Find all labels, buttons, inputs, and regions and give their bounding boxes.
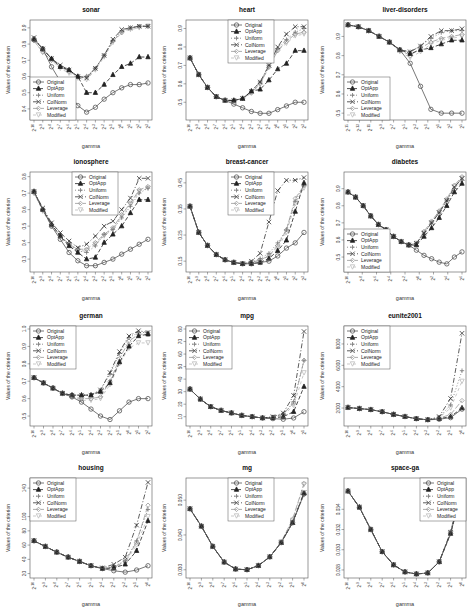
- y-axis: 0.50.60.70.80.91.0: [22, 325, 30, 419]
- svg-text:2-4: 2-4: [83, 276, 89, 282]
- legend-entry: Uniform: [47, 341, 65, 347]
- svg-text:2-10: 2-10: [187, 124, 193, 132]
- svg-text:50: 50: [178, 364, 183, 370]
- legend-entry: Uniform: [361, 341, 379, 347]
- svg-text:2-4: 2-4: [255, 582, 261, 588]
- legend-entry: Modified: [47, 361, 66, 367]
- svg-text:2-8: 2-8: [209, 582, 215, 588]
- x-axis: 2-102-92-82-72-62-52-42-32-22-120212223: [31, 120, 151, 131]
- legend-entry: Leverage: [89, 200, 110, 206]
- svg-text:2-11: 2-11: [367, 124, 373, 131]
- legend-entry: Uniform: [245, 187, 263, 193]
- svg-text:2-6: 2-6: [69, 430, 75, 436]
- legend-entry: Uniform: [245, 35, 263, 41]
- svg-text:6000: 6000: [336, 360, 341, 371]
- svg-text:23: 23: [145, 124, 151, 129]
- svg-text:2-2: 2-2: [269, 430, 275, 436]
- svg-text:23: 23: [301, 276, 307, 281]
- svg-text:60: 60: [178, 351, 183, 357]
- x-axis-label: gamma: [238, 601, 257, 607]
- svg-text:2-4: 2-4: [387, 276, 393, 282]
- svg-text:2-5: 2-5: [238, 430, 244, 436]
- series-original: [32, 539, 150, 575]
- chart-title: mpg: [240, 312, 254, 320]
- y-axis-label: Values of the criterion: [5, 198, 11, 246]
- svg-text:20: 20: [416, 276, 422, 281]
- svg-text:2-10: 2-10: [187, 582, 193, 590]
- svg-text:2-6: 2-6: [66, 124, 72, 130]
- svg-text:0.3: 0.3: [22, 255, 27, 262]
- series-modified: [188, 371, 306, 421]
- legend-entry: ColNorm: [245, 42, 265, 48]
- y-axis-label: Values of the criterion: [161, 504, 167, 552]
- svg-text:20: 20: [301, 582, 307, 587]
- chart-panel-heart: heart0.50.60.70.80.9Values of the criter…: [156, 0, 314, 154]
- legend-entry: Leverage: [47, 354, 68, 360]
- x-axis: 2-102-92-82-72-62-52-42-32-22-120212223: [31, 272, 151, 283]
- svg-text:2-6: 2-6: [76, 582, 82, 588]
- svg-text:2-5: 2-5: [402, 430, 408, 436]
- svg-text:2-3: 2-3: [92, 276, 98, 282]
- y-axis: 0.30.40.50.60.70.8: [22, 173, 30, 262]
- svg-text:2-4: 2-4: [413, 582, 419, 588]
- svg-text:23: 23: [145, 276, 151, 281]
- svg-text:2-8: 2-8: [359, 276, 365, 282]
- svg-text:0.6: 0.6: [22, 73, 27, 80]
- svg-text:20: 20: [118, 276, 124, 281]
- legend-entry: Original: [361, 328, 378, 334]
- svg-text:2-10: 2-10: [187, 430, 193, 438]
- svg-text:2-9: 2-9: [198, 582, 204, 588]
- chart-panel-mpg: mpg1020304050607080Values of the criteri…: [156, 306, 314, 460]
- y-axis-label: Values of the criterion: [319, 46, 325, 94]
- legend: OriginalOptAppUniformColNormLeverageModi…: [30, 77, 76, 120]
- legend-entry: ColNorm: [47, 348, 67, 354]
- y-axis-label: Values of the criterion: [161, 352, 167, 400]
- svg-text:0.6: 0.6: [336, 90, 341, 97]
- svg-text:0.8: 0.8: [336, 202, 341, 209]
- chart-title: breast-cancer: [226, 158, 269, 165]
- svg-text:0.7: 0.7: [336, 71, 341, 78]
- legend-entry: Uniform: [203, 341, 221, 347]
- x-axis-label: gamma: [82, 143, 101, 149]
- legend-entry: Modified: [245, 55, 264, 61]
- legend-entry: Modified: [245, 207, 264, 213]
- chart-title: ionosphere: [73, 158, 108, 166]
- legend-entry: Original: [47, 328, 64, 334]
- chart-panel-space-ga: space-ga0.0280.0300.0320.034Values of th…: [314, 458, 472, 612]
- svg-text:2-6: 2-6: [66, 276, 72, 282]
- legend-entry: OptApp: [245, 180, 262, 186]
- svg-text:2-3: 2-3: [424, 582, 430, 588]
- legend-entry: Uniform: [89, 187, 107, 193]
- x-axis-label: gamma: [396, 295, 415, 301]
- svg-text:0.032: 0.032: [336, 523, 341, 535]
- legend-entry: Leverage: [245, 48, 266, 54]
- svg-text:0.7: 0.7: [336, 219, 341, 226]
- chart-title: liver-disorders: [382, 6, 428, 13]
- svg-text:2-10: 2-10: [31, 582, 37, 590]
- svg-text:24: 24: [444, 276, 450, 281]
- legend-entry: Leverage: [361, 257, 382, 263]
- svg-text:2-1: 2-1: [109, 276, 115, 282]
- chart-title: housing: [78, 464, 103, 472]
- svg-text:20: 20: [22, 571, 27, 577]
- legend-entry: Uniform: [437, 493, 455, 499]
- svg-text:0.45: 0.45: [178, 178, 183, 188]
- chart-panel-liver-disorders: liver-disorders0.50.60.70.80.9Values of …: [314, 0, 472, 154]
- legend-entry: Modified: [47, 112, 66, 118]
- svg-text:2-2: 2-2: [402, 276, 408, 282]
- legend-entry: Leverage: [361, 105, 382, 111]
- y-axis-label: Values of the criterion: [319, 352, 325, 400]
- series-colnorm: [32, 24, 150, 80]
- legend-entry: Modified: [437, 513, 456, 519]
- svg-text:21: 21: [283, 124, 289, 129]
- svg-text:30: 30: [178, 389, 183, 395]
- svg-text:2-8: 2-8: [48, 276, 54, 282]
- svg-text:2-9: 2-9: [379, 124, 385, 130]
- legend-entry: ColNorm: [361, 99, 381, 105]
- svg-text:0.6: 0.6: [22, 395, 27, 402]
- svg-text:2-2: 2-2: [107, 430, 113, 436]
- svg-text:0.034: 0.034: [336, 503, 341, 515]
- legend-entry: ColNorm: [245, 194, 265, 200]
- svg-text:21: 21: [127, 124, 133, 129]
- y-axis-label: Values of the criterion: [5, 46, 11, 94]
